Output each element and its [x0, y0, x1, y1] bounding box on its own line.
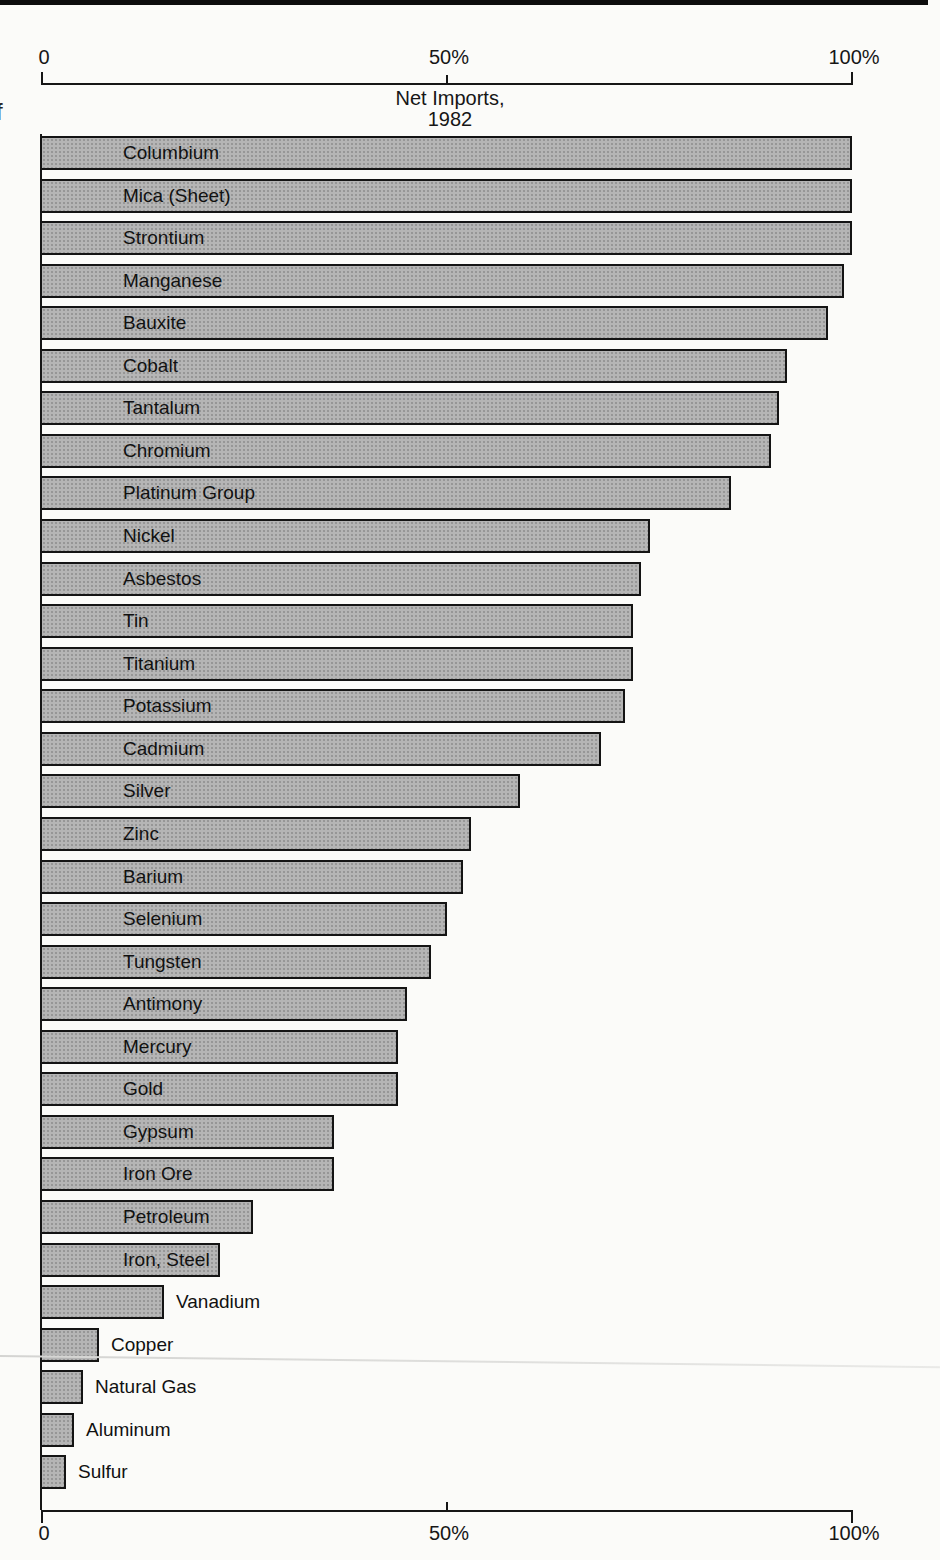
bar	[40, 1455, 66, 1489]
bar-row: Antimony	[40, 987, 928, 1021]
bar-row: Aluminum	[40, 1413, 928, 1447]
bar-label: Columbium	[123, 142, 219, 164]
bar-label: Titanium	[123, 653, 195, 675]
bar-row: Iron, Steel	[40, 1243, 928, 1277]
bar-row: Strontium	[40, 221, 928, 255]
axis-tick-label: 100%	[828, 1522, 879, 1545]
bar	[40, 902, 447, 936]
bar-row: Bauxite	[40, 306, 928, 340]
bar-row: Titanium	[40, 647, 928, 681]
bar-row: Vanadium	[40, 1285, 928, 1319]
bar-label: Asbestos	[123, 568, 201, 590]
bar	[40, 945, 431, 979]
bar-label: Vanadium	[176, 1291, 260, 1313]
bar	[40, 1413, 74, 1447]
bar-label: Cobalt	[123, 355, 178, 377]
bar-row: Iron Ore	[40, 1157, 928, 1191]
bar-label: Gypsum	[123, 1121, 194, 1143]
bar-label: Chromium	[123, 440, 211, 462]
bar-label: Antimony	[123, 993, 202, 1015]
bar-row: Cobalt	[40, 349, 928, 383]
bar-label: Nickel	[123, 525, 175, 547]
axis-tick	[446, 1502, 448, 1512]
bar-row: Gold	[40, 1072, 928, 1106]
bar-label: Tungsten	[123, 951, 202, 973]
bar-row: Mica (Sheet)	[40, 179, 928, 213]
bar-label: Gold	[123, 1078, 163, 1100]
bar	[40, 1072, 398, 1106]
bar-row: Cadmium	[40, 732, 928, 766]
bar-row: Selenium	[40, 902, 928, 936]
bar-row: Sulfur	[40, 1455, 928, 1489]
bar-label: Mercury	[123, 1036, 192, 1058]
bar-row: Asbestos	[40, 562, 928, 596]
bar	[40, 1285, 164, 1319]
bar-row: Zinc	[40, 817, 928, 851]
bar-row: Columbium	[40, 136, 928, 170]
bar-label: Potassium	[123, 695, 212, 717]
bar-label: Mica (Sheet)	[123, 185, 231, 207]
bar-label: Barium	[123, 866, 183, 888]
bar	[40, 860, 463, 894]
bar-row: Chromium	[40, 434, 928, 468]
bar-row: Natural Gas	[40, 1370, 928, 1404]
bar	[40, 817, 471, 851]
bar-label: Copper	[111, 1334, 173, 1356]
bar-label: Manganese	[123, 270, 222, 292]
bar-row: Potassium	[40, 689, 928, 723]
bar-label: Petroleum	[123, 1206, 210, 1228]
bar	[40, 1370, 83, 1404]
bar-row: Barium	[40, 860, 928, 894]
bar-row: Silver	[40, 774, 928, 808]
bar-row: Petroleum	[40, 1200, 928, 1234]
bar-label: Aluminum	[86, 1419, 170, 1441]
bar	[40, 987, 407, 1021]
bar-row: Nickel	[40, 519, 928, 553]
bar-label: Natural Gas	[95, 1376, 196, 1398]
bar-row: Tungsten	[40, 945, 928, 979]
bar-label: Cadmium	[123, 738, 204, 760]
bar-label: Tin	[123, 610, 149, 632]
bar-label: Selenium	[123, 908, 202, 930]
bar-label: Strontium	[123, 227, 204, 249]
bar-label: Platinum Group	[123, 482, 255, 504]
bar-label: Bauxite	[123, 312, 186, 334]
bar-row: Gypsum	[40, 1115, 928, 1149]
bar	[40, 774, 520, 808]
bar-label: Iron Ore	[123, 1163, 193, 1185]
bar-label: Zinc	[123, 823, 159, 845]
axis-tick-label: 50%	[429, 1522, 469, 1545]
bar-row: Platinum Group	[40, 476, 928, 510]
bar-label: Iron, Steel	[123, 1249, 210, 1271]
bar-row: Tantalum	[40, 391, 928, 425]
bar-row: Tin	[40, 604, 928, 638]
bar-label: Sulfur	[78, 1461, 128, 1483]
bar-row: Manganese	[40, 264, 928, 298]
bar-label: Tantalum	[123, 397, 200, 419]
bar	[40, 1030, 398, 1064]
bar-row: Mercury	[40, 1030, 928, 1064]
axis-tick-label: 0	[38, 1522, 49, 1545]
bar-label: Silver	[123, 780, 171, 802]
